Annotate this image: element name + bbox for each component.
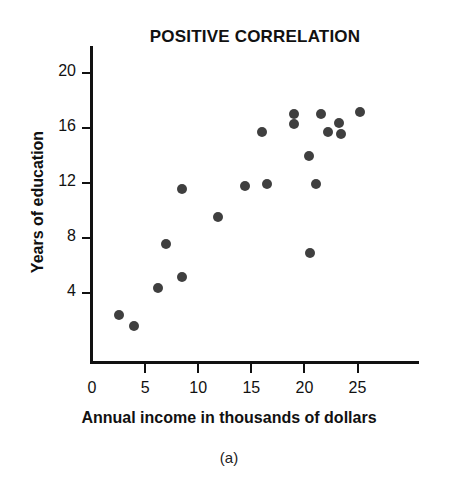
data-point [177,184,187,194]
y-axis-line [90,46,93,364]
data-point [311,179,321,189]
figure-caption: (a) [0,449,458,466]
data-point [323,127,333,137]
x-tick-mark [197,362,199,373]
y-tick-mark [82,292,93,294]
x-tick-mark [250,362,252,373]
data-point [240,181,250,191]
x-axis-line [90,361,419,364]
data-point [289,119,299,129]
x-tick-label: 20 [284,379,324,397]
y-tick-mark [82,182,93,184]
data-point [336,129,346,139]
data-point [257,127,267,137]
data-point [213,212,223,222]
y-tick-label: 8 [36,227,76,245]
data-point [161,239,171,249]
data-point [316,109,326,119]
data-point [177,272,187,282]
x-tick-mark [144,362,146,373]
x-tick-mark [357,362,359,373]
data-point [114,310,124,320]
x-axis-title: Annual income in thousands of dollars [0,409,458,427]
data-point [334,118,344,128]
y-tick-mark [82,127,93,129]
x-tick-label: 0 [72,379,112,397]
data-point [262,179,272,189]
data-point [129,321,139,331]
data-point [153,283,163,293]
x-tick-label: 25 [338,379,378,397]
y-tick-label: 20 [36,62,76,80]
y-tick-label: 12 [36,172,76,190]
x-tick-label: 5 [125,379,165,397]
data-point [304,151,314,161]
y-tick-mark [82,72,93,74]
data-point [305,248,315,258]
y-tick-label: 16 [36,117,76,135]
y-tick-label: 4 [36,282,76,300]
x-tick-mark [303,362,305,373]
data-point [289,109,299,119]
data-point [355,107,365,117]
y-tick-mark [82,237,93,239]
x-tick-label: 15 [231,379,271,397]
x-tick-label: 10 [178,379,218,397]
scatter-plot-figure: POSITIVE CORRELATION Years of education … [0,0,458,488]
